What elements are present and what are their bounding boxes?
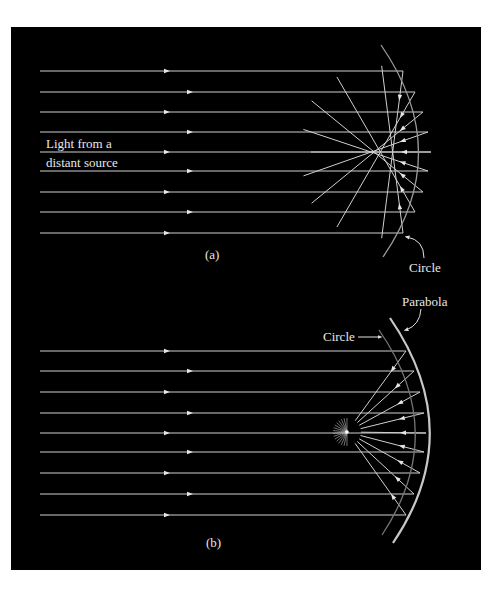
circle-label-b: Circle bbox=[323, 329, 355, 344]
panel-a-spherical-mirror bbox=[40, 66, 431, 238]
panel-b-caption: (b) bbox=[206, 535, 221, 550]
panel-a-caption: (a) bbox=[205, 247, 219, 262]
reflection-diagram: Light from a distant source (a) Circle P… bbox=[0, 0, 498, 593]
source-label-line2: distant source bbox=[46, 155, 118, 170]
focal-point bbox=[345, 430, 349, 434]
circle-label-a: Circle bbox=[409, 260, 441, 275]
parabola-label: Parabola bbox=[402, 294, 448, 309]
source-label-line1: Light from a bbox=[46, 136, 112, 151]
